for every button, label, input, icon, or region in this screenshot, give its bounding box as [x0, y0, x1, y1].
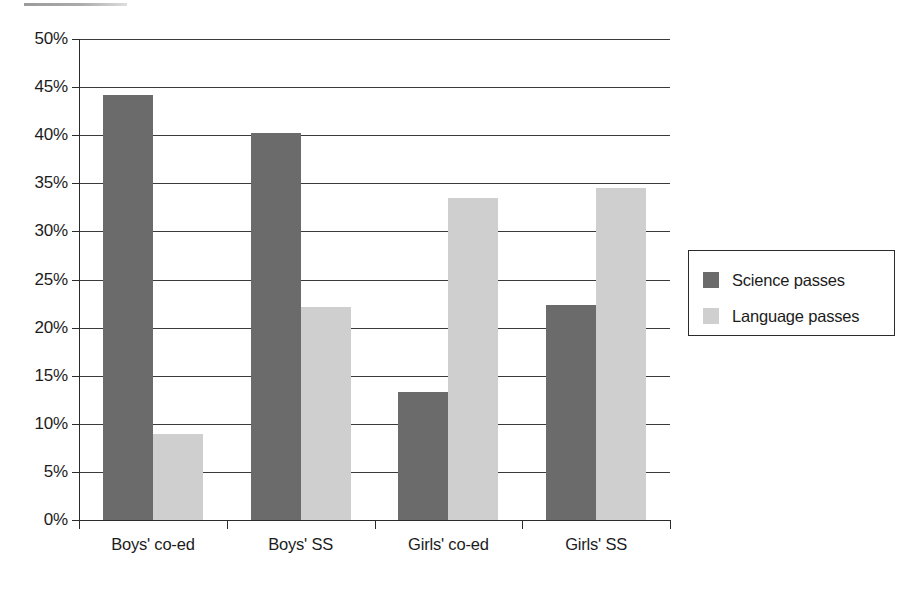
- x-tick-mark: [522, 520, 523, 529]
- y-axis-tick-label: 45%: [2, 78, 68, 95]
- x-axis-category-label-0: Boys' co-ed: [79, 534, 227, 554]
- legend-label: Science passes: [732, 271, 845, 289]
- y-axis-tick-label: 10%: [2, 415, 68, 432]
- x-tick-mark-origin: [79, 520, 80, 529]
- y-tick-mark: [72, 231, 80, 232]
- gridline-45pct: [79, 87, 670, 88]
- gridline-30pct: [79, 231, 670, 232]
- bar-science-3: [546, 305, 596, 520]
- x-axis-category-label-1: Boys' SS: [227, 534, 375, 554]
- y-tick-mark: [72, 135, 80, 136]
- x-axis-category-label-2: Girls' co-ed: [375, 534, 523, 554]
- legend-label: Language passes: [732, 307, 859, 325]
- bar-science-1: [251, 133, 301, 520]
- x-tick-mark: [227, 520, 228, 529]
- y-tick-mark: [72, 39, 80, 40]
- y-axis-tick-label: 40%: [2, 126, 68, 143]
- x-tick-mark: [375, 520, 376, 529]
- y-axis-tick-label: 0%: [2, 511, 68, 528]
- bar-science-0: [103, 95, 153, 520]
- gridline-25pct: [79, 280, 670, 281]
- legend-item-language[interactable]: Language passes: [703, 307, 859, 325]
- y-axis-labels: 0%5%10%15%20%25%30%35%40%45%50%: [0, 0, 68, 590]
- y-tick-mark: [72, 183, 80, 184]
- y-axis-tick-label: 35%: [2, 174, 68, 191]
- gridline-40pct: [79, 135, 670, 136]
- bar-language-3: [596, 188, 646, 520]
- x-axis-category-label-3: Girls' SS: [522, 534, 670, 554]
- y-axis-tick-label: 5%: [2, 463, 68, 480]
- x-tick-mark: [670, 520, 671, 529]
- y-tick-mark: [72, 328, 80, 329]
- legend-swatch-language-icon: [703, 308, 719, 324]
- bar-science-2: [398, 392, 448, 520]
- bar-language-2: [448, 198, 498, 520]
- y-axis-tick-label: 20%: [2, 319, 68, 336]
- y-tick-mark: [72, 424, 80, 425]
- y-tick-mark: [72, 87, 80, 88]
- bar-chart-figure: 0%5%10%15%20%25%30%35%40%45%50% Boys' co…: [0, 0, 917, 590]
- bar-language-1: [301, 307, 351, 520]
- y-axis-tick-label: 30%: [2, 222, 68, 239]
- legend-swatch-science-icon: [703, 272, 719, 288]
- plot-area: [79, 39, 670, 520]
- chart-legend: Science passesLanguage passes: [688, 250, 895, 336]
- gridline-35pct: [79, 183, 670, 184]
- bar-language-0: [153, 434, 203, 520]
- y-axis-tick-label: 50%: [2, 30, 68, 47]
- y-axis-tick-label: 15%: [2, 367, 68, 384]
- y-tick-mark: [72, 280, 80, 281]
- gridline-50pct: [79, 39, 670, 40]
- y-tick-mark: [72, 472, 80, 473]
- legend-item-science[interactable]: Science passes: [703, 271, 845, 289]
- y-axis-tick-label: 25%: [2, 271, 68, 288]
- y-tick-mark: [72, 376, 80, 377]
